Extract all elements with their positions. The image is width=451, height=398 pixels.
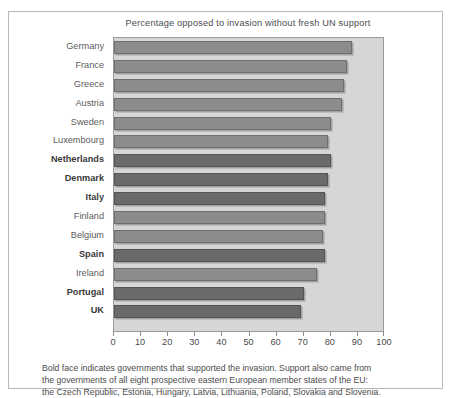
- bar-row: [114, 38, 383, 57]
- bar-netherlands: [114, 154, 331, 167]
- bar-denmark: [114, 173, 328, 186]
- bar-row: [114, 246, 383, 265]
- bar-row: [114, 76, 383, 95]
- x-tick-label: 80: [325, 337, 335, 347]
- y-label-italy: Italy: [9, 188, 109, 207]
- x-tick: [276, 332, 277, 336]
- bar-belgium: [114, 230, 323, 243]
- bar-row: [114, 189, 383, 208]
- y-label-denmark: Denmark: [9, 169, 109, 188]
- footnote: Bold face indicates governments that sup…: [42, 362, 427, 398]
- y-label-belgium: Belgium: [9, 226, 109, 245]
- chart-title: Percentage opposed to invasion without f…: [113, 18, 383, 28]
- bar-row: [114, 170, 383, 189]
- x-tick: [383, 332, 384, 336]
- x-tick: [167, 332, 168, 336]
- x-tick-label: 40: [216, 337, 226, 347]
- x-tick: [357, 332, 358, 336]
- x-tick: [330, 332, 331, 336]
- y-label-finland: Finland: [9, 207, 109, 226]
- bar-series: [114, 38, 383, 331]
- bar-germany: [114, 41, 352, 54]
- bar-row: [114, 227, 383, 246]
- x-axis: 0102030405060708090100: [113, 332, 384, 356]
- x-tick: [194, 332, 195, 336]
- bar-row: [114, 57, 383, 76]
- x-tick-label: 20: [162, 337, 172, 347]
- y-label-spain: Spain: [9, 245, 109, 264]
- bar-austria: [114, 98, 342, 111]
- x-tick-label: 10: [135, 337, 145, 347]
- bar-sweden: [114, 117, 331, 130]
- y-label-france: France: [9, 56, 109, 75]
- x-tick-label: 50: [243, 337, 253, 347]
- x-tick: [249, 332, 250, 336]
- y-label-portugal: Portugal: [9, 283, 109, 302]
- bar-row: [114, 132, 383, 151]
- y-label-sweden: Sweden: [9, 113, 109, 132]
- x-tick: [140, 332, 141, 336]
- bar-uk: [114, 305, 301, 318]
- y-label-luxembourg: Luxembourg: [9, 131, 109, 150]
- x-tick-label: 30: [189, 337, 199, 347]
- figure-frame: Percentage opposed to invasion without f…: [8, 11, 443, 389]
- y-axis-labels: GermanyFranceGreeceAustriaSwedenLuxembou…: [9, 37, 109, 332]
- x-tick-label: 60: [270, 337, 280, 347]
- bar-row: [114, 151, 383, 170]
- bar-row: [114, 302, 383, 321]
- x-tick: [113, 332, 114, 336]
- footnote-line-1: Bold face indicates governments that sup…: [42, 362, 427, 374]
- y-label-ireland: Ireland: [9, 264, 109, 283]
- y-label-netherlands: Netherlands: [9, 150, 109, 169]
- bar-row: [114, 265, 383, 284]
- x-tick: [221, 332, 222, 336]
- bar-row: [114, 114, 383, 133]
- bar-row: [114, 208, 383, 227]
- bar-luxembourg: [114, 135, 328, 148]
- footnote-line-3: the Czech Republic, Estonia, Hungary, La…: [42, 386, 427, 398]
- x-tick-label: 70: [298, 337, 308, 347]
- bar-ireland: [114, 268, 317, 281]
- x-tick-label: 90: [352, 337, 362, 347]
- x-tick-label: 100: [376, 337, 391, 347]
- bar-italy: [114, 192, 325, 205]
- bar-france: [114, 60, 347, 73]
- y-label-uk: UK: [9, 301, 109, 320]
- footnote-line-2: the governments of all eight prospective…: [42, 374, 427, 386]
- y-label-germany: Germany: [9, 37, 109, 56]
- bar-row: [114, 284, 383, 303]
- bar-portugal: [114, 287, 304, 300]
- x-tick: [303, 332, 304, 336]
- bar-finland: [114, 211, 325, 224]
- x-tick-label: 0: [110, 337, 115, 347]
- plot-area: [113, 37, 384, 332]
- y-label-austria: Austria: [9, 94, 109, 113]
- y-label-greece: Greece: [9, 75, 109, 94]
- bar-spain: [114, 249, 325, 262]
- bar-row: [114, 95, 383, 114]
- bar-greece: [114, 79, 344, 92]
